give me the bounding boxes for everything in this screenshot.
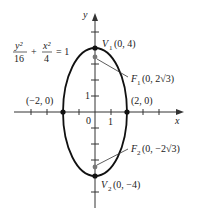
svg-text:y²: y²	[14, 40, 23, 51]
origin-label: 0	[86, 115, 91, 126]
svg-text:(0, −2√3): (0, −2√3)	[142, 143, 180, 155]
y-axis-label: y	[82, 9, 88, 20]
focus-f2-point	[93, 165, 98, 170]
f2-leader-line	[97, 149, 128, 165]
left-intercept-label: (−2, 0)	[26, 95, 53, 107]
right-intercept-point	[124, 109, 129, 114]
svg-text:(0, 2√3): (0, 2√3)	[142, 73, 174, 85]
vertex-v2-point	[92, 173, 97, 178]
y-tick-label: 1	[85, 90, 90, 101]
vertex-v1-point	[92, 45, 97, 50]
svg-text:4: 4	[44, 53, 49, 64]
svg-text:1: 1	[109, 44, 113, 52]
y-axis-arrow-icon	[92, 13, 98, 21]
v1-label: V 1 (0, 4)	[102, 38, 136, 52]
f1-label: F 1 (0, 2√3)	[130, 73, 174, 87]
svg-text:x²: x²	[42, 40, 51, 51]
f2-label: F 2 (0, −2√3)	[130, 143, 180, 157]
svg-text:+: +	[31, 46, 37, 57]
ellipse-equation: y² 16 + x² 4 = 1	[13, 40, 69, 64]
svg-text:16: 16	[14, 53, 24, 64]
svg-text:(0, 4): (0, 4)	[114, 38, 136, 50]
x-axis-label: x	[174, 115, 180, 126]
f1-leader-line	[97, 59, 128, 77]
focus-f1-point	[93, 55, 98, 60]
v2-label: V 2 (0, −4)	[101, 179, 140, 193]
svg-text:2: 2	[108, 185, 112, 193]
x-tick-label: 1	[108, 116, 113, 127]
left-intercept-point	[60, 109, 65, 114]
svg-text:1: 1	[137, 79, 141, 87]
svg-text:(0, −4): (0, −4)	[113, 179, 140, 191]
right-intercept-label: (2, 0)	[131, 95, 153, 107]
svg-text:= 1: = 1	[56, 46, 69, 57]
ellipse-diagram: y² 16 + x² 4 = 1 y x 0 1 1 V 1 (0, 4) F …	[0, 0, 204, 214]
svg-text:2: 2	[137, 149, 141, 157]
